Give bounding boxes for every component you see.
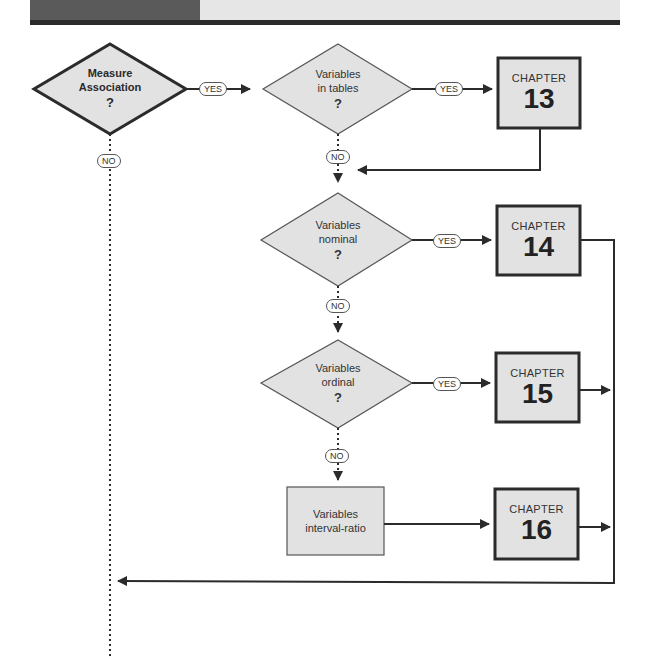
process-label-interval-ratio: Variables interval-ratio (287, 507, 384, 535)
yes-label: YES (433, 377, 461, 391)
no-label: NO (97, 154, 121, 168)
no-label: NO (326, 299, 350, 313)
no-label: NO (325, 449, 349, 463)
question-mark: ? (288, 248, 388, 262)
decision-label-variables-nominal: Variables nominal ? (288, 218, 388, 262)
chapter-label-14: CHAPTER 14 (497, 220, 580, 261)
question-mark: ? (288, 391, 388, 405)
yes-label: YES (199, 82, 227, 96)
question-mark: ? (288, 97, 388, 111)
chapter-label-13: CHAPTER 13 (498, 72, 580, 113)
question-mark: ? (60, 96, 160, 110)
yes-label: YES (435, 82, 463, 96)
decision-label-measure-association: Measure Association ? (60, 66, 160, 110)
chapter-label-15: CHAPTER 15 (496, 367, 579, 408)
chapter-label-16: CHAPTER 16 (495, 503, 578, 544)
no-label: NO (326, 150, 350, 164)
decision-label-variables-ordinal: Variables ordinal ? (288, 361, 388, 405)
yes-label: YES (433, 234, 461, 248)
decision-label-variables-in-tables: Variables in tables ? (288, 67, 388, 111)
